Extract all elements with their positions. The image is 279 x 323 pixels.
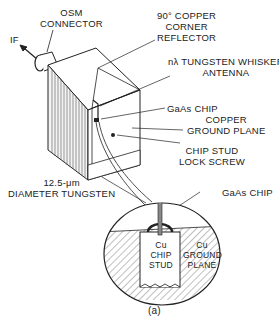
label-inset-gaas-chip: GaAs CHIP [222, 187, 273, 198]
figure-caption: (a) [148, 305, 161, 316]
label-ground-plane: COPPER GROUND PLANE [187, 114, 265, 136]
label-whisker-antenna: nλ TUNGSTEN WHISKER ANTENNA [168, 56, 279, 78]
label-inset-ground-plane: Cu GROUND PLANE [183, 240, 221, 270]
if-arrow-icon [20, 45, 38, 60]
label-inset-chip-stud: Cu CHIP STUD [145, 240, 177, 270]
diagram-figure: OSM CONNECTOR IF 90° COPPER CORNER REFLE… [0, 0, 279, 323]
label-gaas-chip: GaAs CHIP [167, 103, 218, 114]
label-tungsten-wire: 12.5-μm DIAMETER TUNGSTEN [8, 177, 115, 199]
label-corner-reflector: 90° COPPER CORNER REFLECTOR [157, 10, 216, 43]
label-lock-screw: CHIP STUD LOCK SCREW [179, 145, 245, 167]
label-osm-connector: OSM CONNECTOR [40, 7, 103, 29]
label-if-output: IF [10, 34, 19, 45]
